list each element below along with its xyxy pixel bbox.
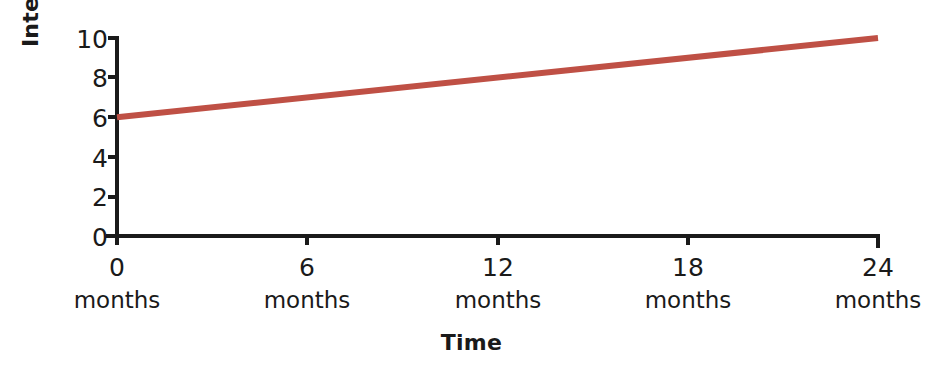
x-tick-label: 18 (613, 255, 763, 280)
x-tick-label: 24 (803, 255, 943, 280)
x-tick-label: 12 (423, 255, 573, 280)
x-tick-unit: months (423, 289, 573, 312)
x-tick-unit: months (42, 289, 192, 312)
x-tick-unit: months (803, 289, 943, 312)
series-line-interest-rate (117, 38, 878, 117)
x-tick-unit: months (232, 289, 382, 312)
x-tick-label: 6 (232, 255, 382, 280)
x-tick-group: 6 months (232, 255, 382, 312)
x-tick-unit: months (613, 289, 763, 312)
chart-figure: Interest rate 10 8 6 4 2 0 (0, 0, 943, 375)
x-tick-label: 0 (42, 255, 192, 280)
x-tick-group: 12 months (423, 255, 573, 312)
x-tick-group: 24 months (803, 255, 943, 312)
x-tick-group: 18 months (613, 255, 763, 312)
x-axis-title: Time (0, 330, 943, 355)
x-tick-group: 0 months (42, 255, 192, 312)
plot-area (0, 0, 943, 375)
